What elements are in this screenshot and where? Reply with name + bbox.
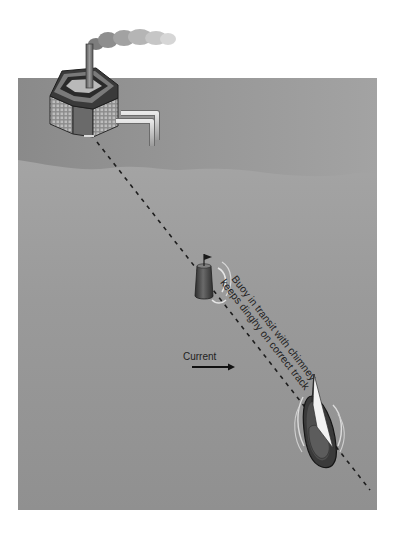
current-label: Current — [183, 351, 217, 362]
diagram-canvas: Buoy in transit with chimney keeps dingh… — [0, 0, 395, 536]
smoke-icon — [88, 29, 176, 50]
chimney — [86, 44, 93, 88]
